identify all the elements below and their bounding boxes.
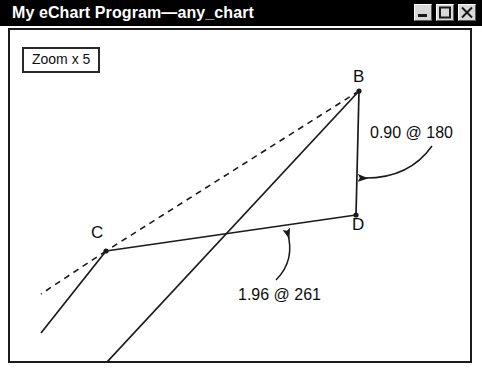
zoom-level-label: Zoom x 5 xyxy=(22,47,100,73)
maximize-icon xyxy=(437,5,453,20)
annotation-arrows xyxy=(276,146,432,280)
chart-plot xyxy=(10,30,470,361)
solid-ray-from-c xyxy=(41,251,106,333)
minimize-button[interactable] xyxy=(414,4,432,21)
window-title: My eChart Program—any_chart xyxy=(12,4,254,22)
cd-measure-label: 1.96 @ 261 xyxy=(238,287,321,303)
cd-segment xyxy=(106,215,356,251)
close-button[interactable] xyxy=(458,4,476,21)
close-icon xyxy=(459,5,475,20)
solid-ray-from-b xyxy=(94,91,359,361)
title-bar[interactable]: My eChart Program—any_chart xyxy=(0,0,482,26)
bd-segment xyxy=(356,91,359,215)
vertex-marker-c[interactable] xyxy=(103,248,108,253)
window-controls xyxy=(414,4,476,21)
point-label-b: B xyxy=(353,68,364,85)
maximize-button[interactable] xyxy=(436,4,454,21)
application-window: My eChart Program—any_chart xyxy=(0,0,482,366)
bd-measure-arrow xyxy=(360,146,432,178)
cd-measure-arrow xyxy=(276,231,290,280)
point-label-d: D xyxy=(352,216,364,233)
vertex-marker-b[interactable] xyxy=(356,88,361,93)
dashed-ray-from-c xyxy=(41,251,106,294)
plot-lines xyxy=(41,91,359,361)
bd-measure-label: 0.90 @ 180 xyxy=(370,125,453,141)
point-label-c: C xyxy=(91,224,103,241)
chart-client-area[interactable]: Zoom x 5 BCD0.90 @ 1801.96 @ 261 xyxy=(8,28,472,363)
minimize-icon xyxy=(415,5,431,20)
